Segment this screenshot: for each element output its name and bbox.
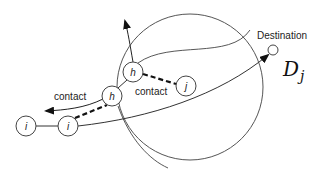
- node-h-lower: h: [102, 86, 122, 106]
- node-i-left: i: [16, 116, 36, 136]
- node-i-right: i: [58, 116, 78, 136]
- contact-edge-h-j: [143, 74, 176, 84]
- contact-label-upper: contact: [135, 86, 167, 97]
- movement-arrow-up: [125, 21, 133, 62]
- node-h-upper: h: [123, 62, 143, 82]
- node-j: j: [176, 76, 196, 96]
- node-label: h: [130, 67, 136, 78]
- destination-label: Destination: [257, 30, 307, 41]
- contact-label-lower: contact: [54, 91, 86, 102]
- node-label: h: [109, 91, 115, 102]
- trajectory-h-upper-curve: [138, 30, 250, 63]
- edge-h-h: [118, 80, 127, 88]
- node-destination: [268, 45, 278, 55]
- region-symbol: D: [282, 57, 299, 81]
- diagram-canvas: i i h h j Destination contact contact D …: [0, 0, 327, 170]
- trajectory-h-lower-curve: [118, 106, 168, 168]
